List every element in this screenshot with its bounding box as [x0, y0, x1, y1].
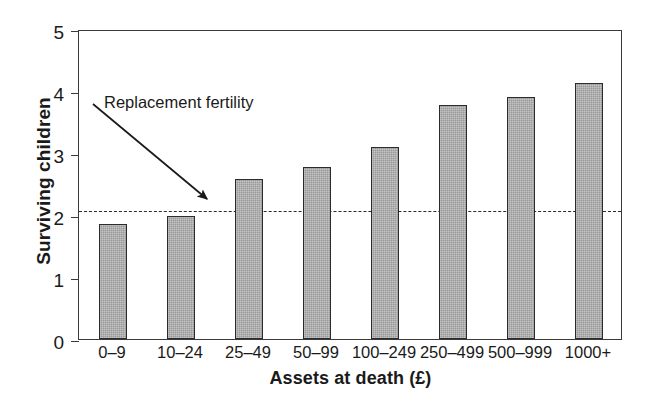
- bar-chart-figure: Surviving children 012345 0–910–2425–495…: [0, 0, 647, 403]
- bar: [235, 179, 262, 339]
- bar: [303, 167, 330, 339]
- bar: [439, 105, 466, 339]
- x-axis-tick-label: 1000+: [554, 344, 622, 361]
- y-axis-tick-label: 5: [53, 23, 64, 42]
- x-axis-tick-label: 25–49: [214, 344, 282, 361]
- x-axis-tick-label: 100–249: [350, 344, 418, 361]
- y-axis-tick: 1: [71, 279, 79, 280]
- y-axis-tick: 0: [71, 341, 79, 342]
- bar: [99, 224, 126, 339]
- y-axis-tick: 5: [71, 31, 79, 32]
- y-axis-tick: 2: [71, 217, 79, 218]
- bar: [371, 147, 398, 339]
- x-axis-tick-label: 250–499: [418, 344, 486, 361]
- x-axis-title: Assets at death (£): [78, 368, 623, 389]
- bar: [507, 97, 534, 339]
- x-axis-tick-label: 0–9: [78, 344, 146, 361]
- x-axis-tick-label: 10–24: [146, 344, 214, 361]
- y-axis-tick-label: 4: [53, 85, 64, 104]
- x-axis-tick-label: 500–999: [486, 344, 554, 361]
- bar: [575, 83, 602, 339]
- y-axis-tick: 4: [71, 93, 79, 94]
- annotation-arrow-icon: [88, 100, 228, 215]
- y-axis-title: Surviving children: [33, 51, 55, 311]
- y-axis-tick-label: 1: [53, 271, 64, 290]
- y-axis-tick: 3: [71, 155, 79, 156]
- bar: [167, 216, 194, 339]
- y-axis-tick-label: 3: [53, 147, 64, 166]
- x-axis-tick-label: 50–99: [282, 344, 350, 361]
- y-axis-tick-label: 0: [53, 333, 64, 352]
- y-axis-tick-label: 2: [53, 209, 64, 228]
